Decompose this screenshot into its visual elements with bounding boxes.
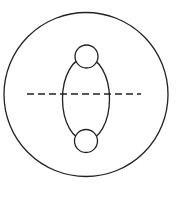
top-small-circle xyxy=(75,45,98,68)
background xyxy=(0,0,177,200)
bottom-small-circle xyxy=(75,130,98,153)
diagram-canvas xyxy=(0,0,177,200)
